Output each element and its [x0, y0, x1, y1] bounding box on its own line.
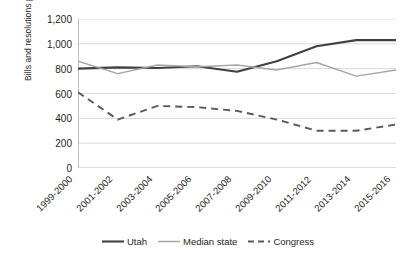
legend-item-congress[interactable]: Congress	[248, 236, 314, 247]
line-chart: Bills and resolutions passed 02004006008…	[0, 0, 416, 264]
legend-item-median-state[interactable]: Median state	[158, 236, 237, 247]
legend-swatch-icon	[102, 237, 124, 246]
legend-label: Utah	[127, 236, 147, 247]
x-axis-tick-label: 2001-2002	[74, 173, 115, 214]
legend-swatch-icon	[248, 237, 270, 246]
x-axis-tick-label: 2011-2012	[273, 174, 313, 214]
x-axis-tick-label: 2009-2010	[233, 173, 274, 214]
legend-label: Congress	[273, 236, 314, 247]
x-axis-tick-label: 2005-2006	[153, 173, 194, 214]
x-axis-tick-label: 2003-2004	[114, 173, 155, 214]
legend-label: Median state	[183, 236, 237, 247]
x-axis-tick-labels: 1999-20002001-20022003-20042005-20062007…	[0, 0, 416, 264]
chart-legend: UtahMedian stateCongress	[0, 236, 416, 247]
legend-item-utah[interactable]: Utah	[102, 236, 147, 247]
x-axis-tick-label: 2015-2016	[352, 173, 393, 214]
x-axis-tick-label: 1999-2000	[34, 173, 75, 214]
legend-swatch-icon	[158, 237, 180, 246]
x-axis-tick-label: 2013-2014	[312, 173, 353, 214]
x-axis-tick-label: 2007-2008	[193, 173, 234, 214]
